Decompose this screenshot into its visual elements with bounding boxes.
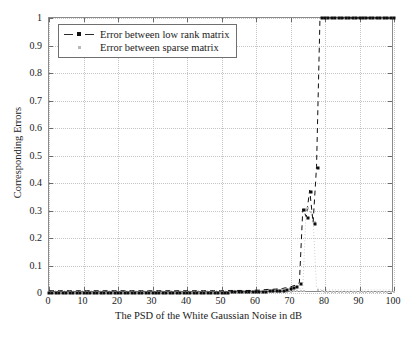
chart-legend[interactable]: Error between low rank matrix Error betw… <box>58 24 237 58</box>
y-tick-label: 0.4 <box>30 177 43 188</box>
y-tick-label: 0.8 <box>30 67 43 78</box>
data-point-marker <box>306 217 309 220</box>
data-point-marker <box>393 291 395 293</box>
data-point-marker <box>345 291 347 293</box>
legend-swatch-dot-icon <box>63 41 97 54</box>
y-axis-title: Corresponding Errors <box>12 73 23 233</box>
data-point-marker <box>313 222 316 225</box>
data-point-marker <box>293 290 295 292</box>
gridline-vertical <box>394 18 395 291</box>
x-tick-label: 20 <box>112 295 122 306</box>
legend-label-low-rank: Error between low rank matrix <box>100 28 229 41</box>
data-point-marker <box>290 291 292 293</box>
y-tick-label: 0.3 <box>30 204 43 215</box>
y-tick-label: 0.9 <box>30 39 43 50</box>
x-tick-label: 60 <box>250 295 260 306</box>
data-point-marker <box>324 291 326 293</box>
x-tick-label: 30 <box>147 295 157 306</box>
tick-y-right <box>388 293 392 294</box>
y-tick-label: 0 <box>37 287 42 298</box>
data-point-marker <box>359 291 361 293</box>
series-line-low-rank <box>49 18 392 291</box>
legend-swatch-dashed-square-icon <box>63 28 97 41</box>
data-point-marker <box>372 291 374 293</box>
figure-canvas: Error between low rank matrix Error betw… <box>0 0 417 337</box>
x-tick-label: 100 <box>386 295 401 306</box>
data-point-marker <box>365 291 367 293</box>
data-point-marker <box>300 290 302 292</box>
data-point-marker <box>362 291 364 293</box>
data-point-marker <box>341 291 343 293</box>
data-point-marker <box>321 290 323 292</box>
series-path <box>49 18 392 291</box>
data-point-marker <box>303 209 306 212</box>
data-point-marker <box>383 291 385 293</box>
y-tick-label: 0.5 <box>30 149 43 160</box>
legend-entry-sparse[interactable]: Error between sparse matrix <box>63 41 229 54</box>
data-point-marker <box>390 291 392 293</box>
x-tick-label: 90 <box>354 295 364 306</box>
data-point-marker <box>299 283 302 286</box>
data-point-marker <box>310 211 312 213</box>
data-point-marker <box>338 291 340 293</box>
data-point-marker <box>386 291 388 293</box>
data-point-marker <box>303 290 305 292</box>
data-point-marker <box>352 291 354 293</box>
x-tick-label: 50 <box>216 295 226 306</box>
y-tick-label: 0.2 <box>30 232 43 243</box>
x-tick-label: 80 <box>319 295 329 306</box>
data-point-marker <box>317 166 320 169</box>
x-tick-label: 10 <box>78 295 88 306</box>
legend-label-sparse: Error between sparse matrix <box>100 41 219 54</box>
data-point-marker <box>393 17 396 20</box>
x-tick-label: 70 <box>285 295 295 306</box>
data-point-marker <box>334 291 336 293</box>
data-point-marker <box>317 289 319 291</box>
data-point-marker <box>307 207 309 209</box>
x-tick-label: 0 <box>46 295 51 306</box>
data-point-marker <box>379 291 381 293</box>
data-point-marker <box>331 291 333 293</box>
x-tick-label: 40 <box>181 295 191 306</box>
data-point-marker <box>296 290 298 292</box>
data-point-marker <box>310 190 313 193</box>
y-tick-label: 1 <box>37 12 42 23</box>
data-point-marker <box>369 291 371 293</box>
data-point-marker <box>348 291 350 293</box>
plot-area: Error between low rank matrix Error betw… <box>48 17 393 292</box>
y-tick-label: 0.7 <box>30 94 43 105</box>
legend-entry-low-rank[interactable]: Error between low rank matrix <box>63 28 229 41</box>
data-point-marker <box>355 291 357 293</box>
y-tick-label: 0.1 <box>30 259 43 270</box>
y-tick-label: 0.6 <box>30 122 43 133</box>
data-point-marker <box>327 291 329 293</box>
data-point-marker <box>376 291 378 293</box>
x-axis-title: The PSD of the White Gaussian Noise in d… <box>0 310 417 321</box>
